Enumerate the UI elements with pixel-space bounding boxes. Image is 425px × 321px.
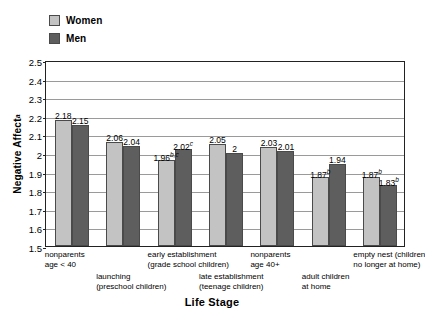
bar-men — [277, 151, 294, 246]
y-axis-tick-label: 1.8 — [29, 187, 42, 198]
x-axis-category-label-line: at home — [302, 282, 350, 292]
bar-value-label: 2.02c — [173, 140, 193, 152]
y-axis-tick-mark — [43, 136, 46, 137]
x-axis-category-label-line: nonparents — [45, 250, 85, 260]
gridline — [46, 99, 404, 100]
bar-value-label: 2.04 — [123, 137, 140, 147]
x-axis-category-label: nonparentsage 40+ — [250, 250, 290, 269]
legend-label-women: Women — [66, 15, 102, 26]
bar-value-label: 1.96b,c — [153, 151, 178, 163]
gridline — [46, 118, 404, 119]
y-axis-tick-mark — [43, 155, 46, 156]
bar-women — [312, 177, 329, 246]
x-axis-category-label: launching(preschool children) — [96, 272, 166, 291]
bar-value-superscript: b — [395, 176, 399, 183]
y-axis-tick-label: 1.7 — [29, 205, 42, 216]
x-axis-category-label-line: (teenage children) — [199, 282, 263, 292]
x-axis-category-label-line: early establishment — [148, 250, 229, 260]
x-axis-title: Life Stage — [0, 296, 424, 308]
x-axis-category-label: adult childrenat home — [302, 272, 350, 291]
bar-men — [329, 164, 346, 246]
x-axis-category-label: late establishment(teenage children) — [199, 272, 263, 291]
x-axis-category-label-line: age 40+ — [250, 260, 290, 270]
bar-value-label: 2.03 — [261, 138, 278, 148]
x-axis-category-label: empty nest (childrenno longer at home) — [353, 250, 425, 269]
bar-women — [209, 144, 226, 246]
x-axis-category-label-line: empty nest (children — [353, 250, 425, 260]
bar-women — [158, 160, 175, 246]
bar-value-label: 2.18 — [55, 111, 72, 121]
bar-women — [260, 147, 277, 246]
y-axis-tick-mark — [43, 229, 46, 230]
legend-label-men: Men — [66, 33, 86, 44]
y-axis-title: Negative Affecta — [9, 61, 25, 247]
x-axis-category-label-line: nonparents — [250, 250, 290, 260]
bar-men — [380, 185, 397, 246]
y-axis-tick-label: 2.2 — [29, 112, 42, 123]
y-axis-tick-mark — [43, 248, 46, 249]
y-axis-tick-label: 2.1 — [29, 131, 42, 142]
y-axis-tick-label: 2 — [37, 150, 42, 161]
bar-men — [123, 146, 140, 246]
x-axis-category-label-line: launching — [96, 272, 166, 282]
gridline — [46, 81, 404, 82]
legend-item-men: Men — [49, 31, 102, 46]
x-axis-category-label: early establishment(grade school childre… — [148, 250, 229, 269]
bar-value-superscript: b — [327, 168, 331, 175]
bar-value-label: 2 — [232, 144, 237, 154]
x-axis-category-label-line: (grade school children) — [148, 260, 229, 270]
bar-women — [106, 142, 123, 246]
y-axis-tick-mark — [43, 62, 46, 63]
bar-value-label: 1.94 — [329, 155, 346, 165]
y-axis-tick-label: 2.5 — [29, 57, 42, 68]
y-axis-title-text: Negative Affect — [12, 118, 23, 193]
y-axis-tick-label: 1.9 — [29, 168, 42, 179]
bar-value-superscript: c — [190, 140, 193, 147]
x-axis-category-label-line: late establishment — [199, 272, 263, 282]
bar-value-label: 2.06 — [106, 133, 123, 143]
bar-value-label: 2.15 — [72, 116, 89, 126]
legend-swatch-men — [49, 33, 60, 44]
y-axis-tick-mark — [43, 192, 46, 193]
x-axis-category-label-line: no longer at home) — [353, 260, 425, 270]
bar-value-label: 2.01 — [278, 142, 295, 152]
bar-women — [363, 177, 380, 246]
legend-item-women: Women — [49, 13, 102, 28]
x-axis-category-label: nonparentsage < 40 — [45, 250, 85, 269]
y-axis-tick-label: 1.6 — [29, 224, 42, 235]
y-axis-tick-label: 2.3 — [29, 94, 42, 105]
y-axis-tick-mark — [43, 174, 46, 175]
bar-women — [55, 120, 72, 246]
bar-men — [72, 125, 89, 246]
x-axis-category-label-line: age < 40 — [45, 260, 85, 270]
bar-value-superscript: b — [378, 168, 382, 175]
bar-value-label: 1.87b — [310, 168, 330, 180]
bar-value-label: 1.83b — [379, 176, 399, 188]
bar-value-superscript: b,c — [170, 151, 179, 158]
y-axis-tick-mark — [43, 118, 46, 119]
bar-men — [226, 153, 243, 246]
bar-value-label: 2.05 — [209, 135, 226, 145]
y-axis-title-superscript: a — [14, 114, 21, 118]
y-axis-tick-mark — [43, 81, 46, 82]
legend-swatch-women — [49, 15, 60, 26]
y-axis-tick-mark — [43, 211, 46, 212]
plot-area: 2.52.42.32.22.121.91.81.71.61.5 2.182.15… — [45, 61, 405, 247]
chart-legend: Women Men — [49, 13, 102, 49]
y-axis-tick-mark — [43, 99, 46, 100]
x-axis-category-label-line: adult children — [302, 272, 350, 282]
y-axis-tick-label: 1.5 — [29, 243, 42, 254]
y-axis-tick-label: 2.4 — [29, 75, 42, 86]
bar-men — [175, 149, 192, 246]
x-axis-category-label-line: (preschool children) — [96, 282, 166, 292]
